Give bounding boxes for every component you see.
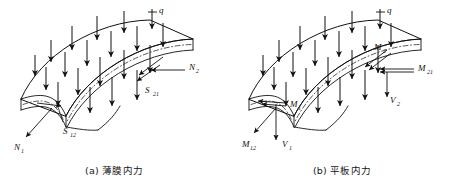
label-m21-subscript: 21 [427, 69, 433, 75]
label-load-q: q [159, 5, 164, 15]
right-edge-top [66, 39, 193, 116]
label-v1-subscript: 1 [289, 145, 292, 151]
panel-plate-forces: q M 2 M 21 V 2 [228, 0, 456, 190]
arrow-m21 [380, 69, 414, 72]
front-edge-bottom [249, 106, 294, 127]
bottom-cut-arc [294, 127, 326, 130]
bottom-cut-arc [66, 127, 98, 130]
label-s12: S [63, 126, 68, 136]
label-v2-subscript: 2 [397, 101, 400, 107]
label-m2: M [373, 42, 382, 52]
front-edge-bottom [21, 106, 66, 127]
arrow-s12 [37, 103, 61, 106]
caption-panel-a: (a) 薄膜内力 [0, 163, 228, 177]
label-m2-subscript: 2 [383, 48, 386, 54]
label-m1: M [289, 99, 298, 109]
right-edge-top [294, 39, 421, 116]
label-m12-subscript: 12 [250, 145, 256, 151]
label-m12: M [241, 139, 250, 149]
arrow-n1 [26, 108, 52, 137]
arrow-m12 [254, 108, 276, 133]
figure-root: q N 2 S 21 S 12 [0, 0, 457, 190]
shell-top-surface [21, 20, 193, 116]
bottom-cut-edge [98, 106, 120, 130]
label-n1-subscript: 1 [21, 148, 24, 154]
label-v1: V [282, 139, 289, 149]
label-n1: N [13, 142, 21, 152]
caption-panel-b: (b) 平板内力 [228, 163, 456, 177]
label-s21-subscript: 21 [153, 91, 159, 97]
label-load-q: q [387, 5, 392, 15]
label-s21: S [145, 85, 150, 95]
label-n2-subscript: 2 [196, 68, 199, 74]
panel-membrane-forces: q N 2 S 21 S 12 [0, 0, 228, 190]
shell-diagram-b: q M 2 M 21 V 2 [228, 0, 456, 165]
shell-diagram-a: q N 2 S 21 S 12 [0, 0, 228, 165]
label-n2: N [188, 62, 196, 72]
bottom-cut-edge [326, 106, 348, 130]
label-m1-subscript: 1 [298, 105, 301, 111]
label-s12-subscript: 12 [70, 132, 76, 138]
label-v2: V [390, 95, 397, 105]
label-m21: M [417, 63, 426, 73]
